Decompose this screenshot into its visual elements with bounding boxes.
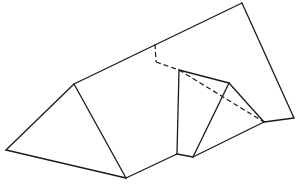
prism-diagram: [0, 0, 296, 184]
edge-BC: [74, 84, 126, 178]
hidden-edge-FG: [155, 44, 156, 62]
hidden-edges: [155, 44, 264, 122]
edge-AC: [6, 150, 126, 178]
edge-KL: [177, 154, 193, 157]
visible-edges: [6, 3, 294, 178]
edge-HI: [179, 70, 229, 83]
edge-DE: [242, 3, 294, 118]
edge-IJ: [229, 83, 264, 122]
edge-JE: [264, 118, 294, 122]
edge-HK: [177, 70, 179, 154]
edge-LJ: [193, 122, 264, 157]
edge-CK: [126, 154, 177, 178]
edge-IL: [193, 83, 229, 157]
edge-BD: [74, 3, 242, 84]
hidden-edge-GH: [156, 62, 179, 70]
edge-AB: [6, 84, 74, 150]
hidden-edge-HJ: [179, 70, 264, 122]
